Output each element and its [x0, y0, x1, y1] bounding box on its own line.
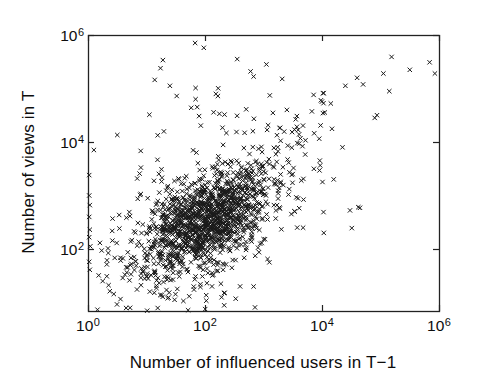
x-axis-tick-label: 100 — [76, 317, 100, 334]
y-axis-label: Number of views in T — [19, 90, 39, 253]
y-axis-tick-label: 104 — [60, 134, 84, 151]
scatter-points — [87, 41, 437, 313]
y-axis-tick-label: 102 — [60, 241, 84, 258]
scatter-plot-figure: Number of views in T Number of influence… — [0, 0, 480, 391]
plot-canvas — [0, 0, 480, 391]
x-axis-tick-label: 106 — [427, 317, 451, 334]
y-axis-tick-label: 106 — [60, 27, 84, 44]
x-axis-label: Number of influenced users in T−1 — [130, 353, 397, 373]
x-axis-tick-label: 102 — [193, 317, 217, 334]
x-axis-tick-label: 104 — [310, 317, 334, 334]
